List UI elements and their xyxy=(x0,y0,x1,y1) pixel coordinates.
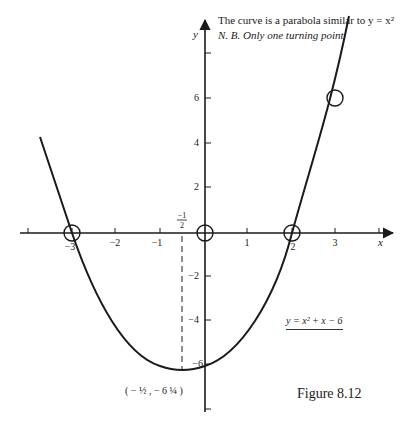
y-axis-label: y xyxy=(192,28,198,40)
y-tick-labels: 6 4 2 −2 −4 −6 xyxy=(188,92,203,369)
svg-text:−6: −6 xyxy=(192,358,203,369)
figure-caption: Figure 8.12 xyxy=(297,386,362,402)
note-parabola: The curve is a parabola similar to y = x… xyxy=(218,14,394,26)
equation-label: y = x² + x − 6 xyxy=(286,315,343,330)
svg-text:2: 2 xyxy=(180,221,184,230)
svg-text:−1: −1 xyxy=(152,237,163,248)
svg-text:−2: −2 xyxy=(188,270,199,281)
svg-text:4: 4 xyxy=(194,137,199,148)
svg-text:−3: −3 xyxy=(65,241,76,252)
svg-text:1: 1 xyxy=(245,237,250,248)
note-turning-point: N. B. Only one turning point xyxy=(218,29,344,41)
svg-text:−2: −2 xyxy=(110,237,121,248)
vertex-label: ( − ½ , − 6 ¼ ) xyxy=(125,385,183,396)
circled-points xyxy=(64,90,343,241)
svg-text:−4: −4 xyxy=(188,314,199,325)
svg-text:−1: −1 xyxy=(178,211,187,220)
svg-text:3: 3 xyxy=(333,237,338,248)
svg-text:2: 2 xyxy=(194,181,199,192)
svg-text:6: 6 xyxy=(194,92,199,103)
y-ticks xyxy=(205,53,211,409)
svg-text:2: 2 xyxy=(291,241,296,252)
graph-canvas: −3 −2 −1 1 2 3 6 4 2 −2 −4 −6 −1 2 x y xyxy=(0,0,404,429)
half-marker-label: −1 2 xyxy=(177,211,187,230)
x-axis-label: x xyxy=(377,236,383,248)
